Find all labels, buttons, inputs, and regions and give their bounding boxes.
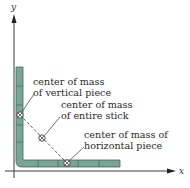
center-of-mass-diagram: y x center of mass of vertic <box>0 0 190 188</box>
x-axis-arrow-icon <box>167 169 176 174</box>
horizontal-cm-label-line1: center of mass of <box>84 129 169 140</box>
entire-cm-label-line2: of entire stick <box>61 110 129 121</box>
vertical-cm-label-line2: of vertical piece <box>33 87 111 98</box>
vertical-cm-label-line1: center of mass <box>33 76 105 87</box>
horizontal-cm-label-line2: horizontal piece <box>84 140 163 151</box>
y-axis-arrow-icon <box>12 14 17 23</box>
x-axis-label: x <box>179 166 184 176</box>
entire-cm-label-line1: center of mass <box>61 99 133 110</box>
entire-cm-leader-line <box>45 117 60 135</box>
vertical-cm-marker-icon <box>17 112 23 118</box>
horizontal-cm-leader-line <box>70 147 84 160</box>
y-axis-label: y <box>10 2 17 12</box>
entire-cm-marker-icon <box>39 135 45 141</box>
horizontal-cm-marker-icon <box>64 160 70 166</box>
